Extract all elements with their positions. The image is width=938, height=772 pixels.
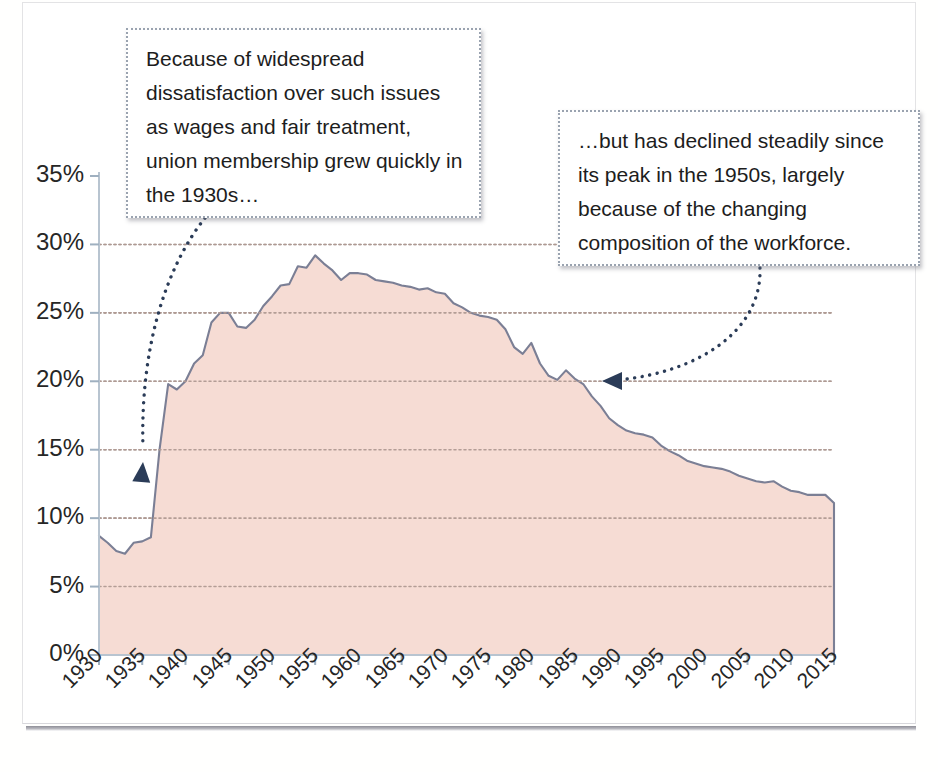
y-axis-tick-label: 10% — [12, 502, 84, 530]
y-axis-tick-label: 35% — [12, 160, 84, 188]
annotation-callout-early-growth-text: Because of widespread dissatisfaction ov… — [146, 42, 463, 212]
annotation-arrow-decline-head — [602, 372, 622, 390]
annotation-callout-decline: …but has declined steadily since its pea… — [558, 110, 920, 266]
y-axis-tick-label: 15% — [12, 434, 84, 462]
annotation-arrow-decline-line — [618, 268, 760, 380]
y-axis-tick-label: 30% — [12, 228, 84, 256]
annotation-callout-decline-text: …but has declined steadily since its pea… — [578, 124, 902, 260]
y-axis-tick-label: 25% — [12, 297, 84, 325]
area-fill — [99, 255, 834, 655]
annotation-arrow-decline — [602, 268, 760, 390]
chart-page: 0%5%10%15%20%25%30%35% 19301935194019451… — [0, 0, 938, 772]
y-axis-tick-label: 5% — [12, 571, 84, 599]
annotation-callout-early-growth: Because of widespread dissatisfaction ov… — [126, 28, 481, 218]
annotation-arrow-early-growth-head — [132, 461, 152, 482]
y-axis-tick-label: 20% — [12, 365, 84, 393]
